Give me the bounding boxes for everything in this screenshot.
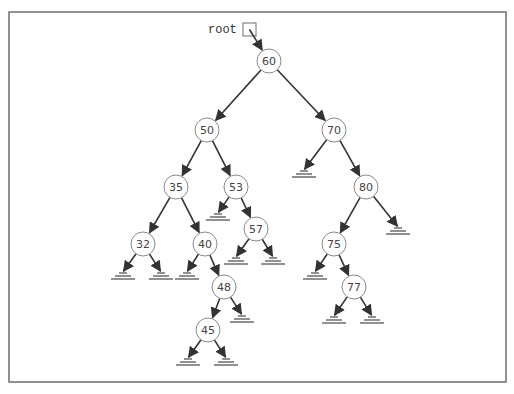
- node-value: 48: [217, 281, 231, 294]
- node-value: 50: [200, 124, 214, 137]
- node-value: 45: [201, 324, 215, 337]
- tree-node-75: 75: [322, 232, 346, 256]
- bst-diagram: root 60507035538032405775487745: [0, 0, 514, 394]
- node-value: 77: [347, 281, 361, 294]
- node-value: 70: [327, 124, 341, 137]
- root-label: root: [208, 23, 237, 37]
- tree-node-35: 35: [164, 175, 188, 199]
- node-value: 57: [249, 223, 263, 236]
- node-value: 40: [198, 238, 212, 251]
- node-value: 35: [169, 181, 183, 194]
- tree-node-45: 45: [196, 318, 220, 342]
- diagram-frame: [9, 12, 506, 382]
- node-value: 32: [136, 238, 150, 251]
- tree-node-50: 50: [195, 118, 219, 142]
- node-value: 80: [359, 181, 373, 194]
- node-value: 60: [262, 55, 276, 68]
- tree-node-70: 70: [322, 118, 346, 142]
- node-value: 53: [229, 181, 243, 194]
- tree-node-60: 60: [257, 49, 281, 73]
- node-value: 75: [327, 238, 341, 251]
- tree-node-57: 57: [244, 217, 268, 241]
- tree-node-48: 48: [212, 275, 236, 299]
- tree-node-77: 77: [342, 275, 366, 299]
- tree-node-80: 80: [354, 175, 378, 199]
- tree-node-32: 32: [131, 232, 155, 256]
- tree-node-40: 40: [193, 232, 217, 256]
- tree-node-53: 53: [224, 175, 248, 199]
